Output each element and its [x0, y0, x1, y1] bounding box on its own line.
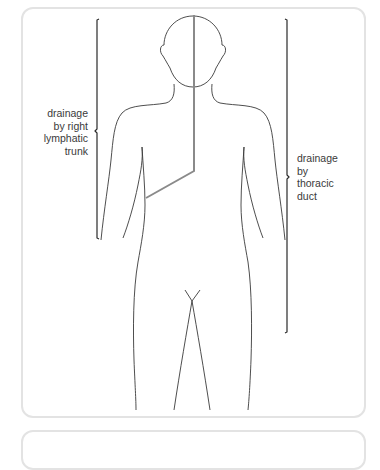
label-line: duct	[297, 190, 338, 203]
drainage-divider-line	[146, 15, 194, 198]
thoracic-duct-label: drainage by thoracic duct	[297, 152, 338, 202]
groin-right	[192, 290, 200, 301]
label-line: drainage	[44, 107, 88, 120]
right-bracket	[285, 19, 289, 333]
left-inner-arm	[123, 147, 142, 238]
groin-left	[185, 290, 192, 301]
label-line: drainage	[297, 152, 338, 165]
right-inner-arm	[244, 147, 263, 238]
label-line: lymphatic	[44, 132, 88, 145]
label-line: by right	[44, 120, 88, 133]
left-shoulder-arm-outer	[101, 84, 174, 240]
label-line: thoracic	[297, 177, 338, 190]
right-inner-leg	[192, 301, 210, 410]
left-bracket	[95, 19, 99, 239]
left-torso-leg	[133, 147, 145, 410]
left-inner-leg	[174, 301, 192, 410]
label-line: trunk	[44, 145, 88, 158]
right-shoulder-arm-outer	[212, 84, 285, 240]
label-line: by	[297, 165, 338, 178]
right-lymphatic-trunk-label: drainage by right lymphatic trunk	[44, 107, 88, 157]
right-torso-leg	[241, 147, 252, 410]
